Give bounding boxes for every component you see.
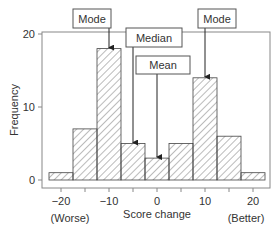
histogram-bar — [121, 144, 145, 181]
histogram-bar — [217, 136, 241, 180]
x-tick-label: 10 — [199, 195, 211, 207]
annotation-label-median: Median — [136, 32, 172, 44]
y-tick-label: 10 — [23, 101, 35, 113]
histogram-bar — [97, 49, 121, 180]
x-tick-label: 0 — [154, 195, 160, 207]
worse-label: (Worse) — [51, 212, 90, 224]
x-tick-label: −10 — [100, 195, 119, 207]
histogram-bar — [49, 173, 73, 180]
histogram-bar — [193, 78, 217, 180]
histogram-chart: 01020 −20−1001020 ModeMedianMeanMode Fre… — [0, 0, 280, 238]
x-axis-label: Score change — [123, 208, 191, 220]
y-axis: 01020 — [23, 28, 42, 186]
x-tick-label: 20 — [247, 195, 259, 207]
histogram-bar — [145, 158, 169, 180]
x-axis: −20−1001020 — [52, 188, 259, 207]
histogram-bar — [241, 173, 265, 180]
y-tick-label: 0 — [29, 174, 35, 186]
histogram-bar — [169, 144, 193, 181]
annotation-label-mode: Mode — [78, 13, 106, 25]
y-axis-label: Frequency — [8, 84, 20, 136]
better-label: (Better) — [228, 212, 265, 224]
annotation-label-mean: Mean — [149, 59, 177, 71]
histogram-bar — [73, 129, 97, 180]
y-tick-label: 20 — [23, 28, 35, 40]
x-tick-label: −20 — [52, 195, 71, 207]
annotation-label-mode: Mode — [203, 13, 231, 25]
